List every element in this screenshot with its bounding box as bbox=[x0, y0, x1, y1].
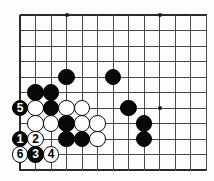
grid-line-vertical bbox=[82, 15, 83, 171]
grid-line-horizontal bbox=[20, 139, 207, 140]
star-point bbox=[158, 106, 162, 110]
stone-black bbox=[136, 115, 152, 131]
stone-black bbox=[120, 100, 136, 116]
go-board-diagram: 512634 bbox=[0, 0, 214, 181]
stone-black bbox=[58, 131, 74, 147]
grid-line-vertical bbox=[206, 15, 207, 171]
grid-line-vertical bbox=[66, 15, 67, 171]
stone-black bbox=[74, 131, 90, 147]
move-number: 3 bbox=[28, 147, 42, 161]
star-point bbox=[158, 13, 162, 17]
stone-white bbox=[89, 131, 105, 147]
numbered-stone-black-1: 1 bbox=[12, 131, 28, 147]
grid-line-horizontal bbox=[20, 30, 207, 31]
numbered-stone-black-5: 5 bbox=[12, 100, 28, 116]
grid-line-vertical bbox=[144, 15, 145, 171]
stone-black bbox=[58, 115, 74, 131]
grid-line-vertical bbox=[113, 15, 114, 171]
grid-line-vertical bbox=[97, 15, 98, 171]
stone-black bbox=[105, 69, 121, 85]
grid-line-horizontal bbox=[20, 61, 207, 62]
stone-black bbox=[136, 131, 152, 147]
stone-black bbox=[43, 84, 59, 100]
stone-black bbox=[58, 69, 74, 85]
grid-line-horizontal bbox=[20, 46, 207, 47]
numbered-stone-black-3: 3 bbox=[27, 146, 43, 162]
grid-line-vertical bbox=[159, 15, 160, 171]
grid-line-vertical bbox=[190, 15, 191, 171]
numbered-stone-white-4: 4 bbox=[43, 146, 59, 162]
stone-white bbox=[74, 100, 90, 116]
grid-line-vertical bbox=[175, 15, 176, 171]
stone-black bbox=[43, 100, 59, 116]
numbered-stone-white-2: 2 bbox=[27, 131, 43, 147]
grid-line-horizontal bbox=[20, 14, 207, 16]
move-number: 5 bbox=[13, 101, 27, 115]
stone-white bbox=[27, 100, 43, 116]
stone-white bbox=[58, 100, 74, 116]
stone-white bbox=[43, 115, 59, 131]
stone-white bbox=[27, 115, 43, 131]
stone-white bbox=[89, 115, 105, 131]
move-number: 2 bbox=[28, 132, 42, 146]
move-number: 6 bbox=[13, 147, 27, 161]
grid-line-horizontal bbox=[20, 169, 207, 171]
stone-white bbox=[74, 115, 90, 131]
move-number: 4 bbox=[44, 147, 58, 161]
grid-line-vertical bbox=[128, 15, 129, 171]
star-point bbox=[65, 13, 69, 17]
numbered-stone-white-6: 6 bbox=[12, 146, 28, 162]
stone-black bbox=[27, 84, 43, 100]
move-number: 1 bbox=[13, 132, 27, 146]
